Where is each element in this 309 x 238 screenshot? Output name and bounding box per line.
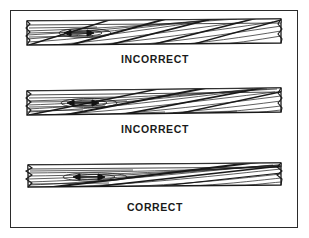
caption-incorrect-1: INCORRECT bbox=[11, 53, 299, 65]
figure-border: INCORRECT bbox=[10, 10, 298, 228]
caption-correct: CORRECT bbox=[11, 201, 299, 213]
plank-illustration-steep bbox=[23, 15, 287, 51]
caption-incorrect-2: INCORRECT bbox=[11, 123, 299, 135]
figure-root: INCORRECT bbox=[0, 0, 309, 238]
plank-illustration-shallow bbox=[23, 157, 287, 195]
panel-incorrect-1: INCORRECT bbox=[11, 15, 299, 77]
panel-incorrect-2: INCORRECT bbox=[11, 83, 299, 147]
plank-illustration-moderate bbox=[23, 83, 287, 121]
panel-correct: CORRECT bbox=[11, 157, 299, 223]
